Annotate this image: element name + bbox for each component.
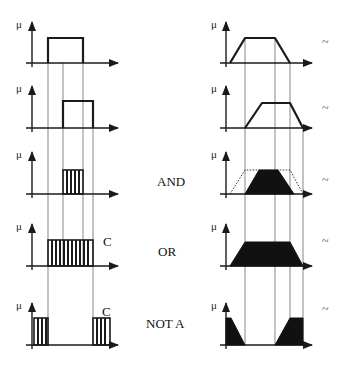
not-a-operation-label: NOT A bbox=[146, 316, 185, 331]
mu-label: μ bbox=[211, 18, 217, 30]
fuzzy-logic-diagram: μ μ μ μ bbox=[0, 0, 349, 365]
fuzzy-tilde-marker: ~ bbox=[322, 173, 329, 187]
crisp-or-plot: μ C bbox=[16, 220, 118, 270]
fuzzy-and-plot: μ bbox=[211, 148, 312, 198]
fuzzy-not-plot: μ bbox=[211, 299, 312, 349]
fuzzy-tilde-marker: ~ bbox=[322, 101, 329, 115]
crisp-set-c-label: C bbox=[102, 304, 111, 319]
mu-label: μ bbox=[16, 18, 22, 30]
fuzzy-or-plot: μ bbox=[211, 220, 312, 270]
fuzzy-set-a-plot: μ bbox=[211, 18, 312, 67]
mu-label: μ bbox=[16, 148, 22, 160]
and-operation-label: AND bbox=[157, 174, 185, 189]
crisp-set-b-plot: μ bbox=[16, 82, 118, 132]
crisp-set-a-plot: μ bbox=[16, 18, 118, 67]
or-operation-label: OR bbox=[158, 244, 176, 259]
mu-label: μ bbox=[16, 220, 22, 232]
fuzzy-set-b-plot: μ bbox=[211, 82, 312, 132]
mu-label: μ bbox=[211, 220, 217, 232]
mu-label: μ bbox=[16, 82, 22, 94]
mu-label: μ bbox=[211, 148, 217, 160]
crisp-not-plot: μ C bbox=[16, 299, 118, 349]
mu-label: μ bbox=[211, 82, 217, 94]
crisp-set-c-label: C bbox=[103, 234, 112, 249]
fuzzy-tilde-marker: ~ bbox=[322, 35, 329, 49]
mu-label: μ bbox=[211, 299, 217, 311]
mu-label: μ bbox=[16, 299, 22, 311]
crisp-and-plot: μ bbox=[16, 148, 118, 198]
fuzzy-tilde-marker: ~ bbox=[322, 234, 329, 248]
fuzzy-tilde-marker: ~ bbox=[322, 302, 329, 316]
